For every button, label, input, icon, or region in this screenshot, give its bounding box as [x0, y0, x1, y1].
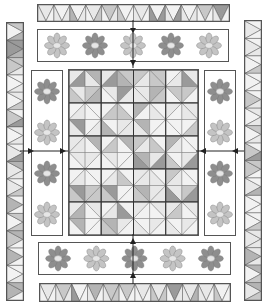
arrow-top-down [128, 20, 138, 70]
arrow-left-right [20, 146, 70, 156]
arrow-bottom-up [128, 234, 138, 286]
left-pieced-border [6, 22, 24, 301]
right-pieced-border [244, 20, 262, 301]
arrow-right-left [196, 146, 246, 156]
center-quilt-grid [68, 69, 199, 236]
